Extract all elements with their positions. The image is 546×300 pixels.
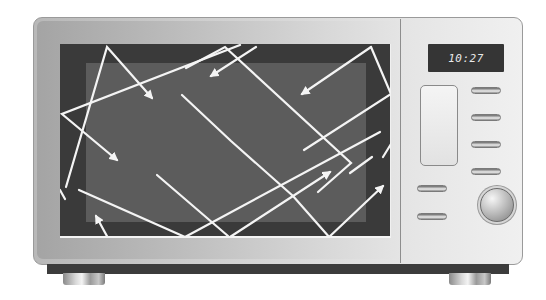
foot-left [63, 273, 105, 285]
clock-display: 10:27 [428, 44, 504, 72]
control-button-5[interactable] [417, 185, 447, 192]
wave-path-2 [62, 45, 240, 160]
control-panel: 10:27 [401, 17, 523, 265]
wave-path-9 [186, 47, 351, 192]
wave-path-1 [66, 47, 152, 187]
control-button-2[interactable] [471, 114, 501, 121]
microwave-waves-illustration [60, 44, 391, 238]
dial-knob[interactable] [480, 188, 514, 222]
wave-path-14 [383, 144, 391, 157]
wave-path-6 [185, 132, 380, 237]
control-button-6[interactable] [417, 213, 447, 220]
control-button-1[interactable] [471, 87, 501, 94]
wave-path-13 [328, 186, 383, 238]
wave-path-5 [157, 175, 228, 236]
wave-path-3b [96, 216, 114, 238]
wave-path-3 [79, 190, 185, 237]
wave-path-4 [60, 190, 65, 199]
wave-path-8 [302, 47, 371, 94]
microwave: 10:27 [33, 17, 523, 265]
microwave-base [47, 264, 509, 274]
control-button-3[interactable] [471, 141, 501, 148]
door-open-button[interactable] [420, 85, 458, 166]
control-button-4[interactable] [471, 168, 501, 175]
foot-right [449, 273, 491, 285]
wave-path-15 [350, 157, 372, 173]
